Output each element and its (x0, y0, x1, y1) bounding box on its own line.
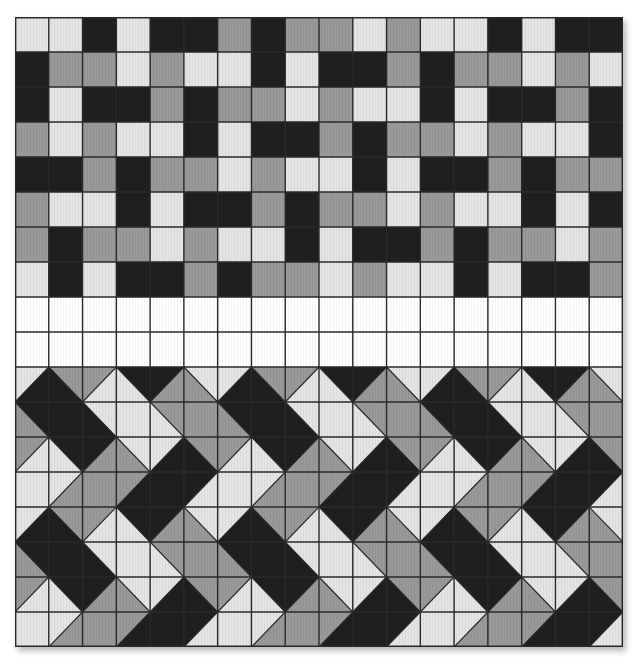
tile-pattern-canvas (15, 17, 623, 647)
tile-pattern-board (15, 17, 623, 647)
